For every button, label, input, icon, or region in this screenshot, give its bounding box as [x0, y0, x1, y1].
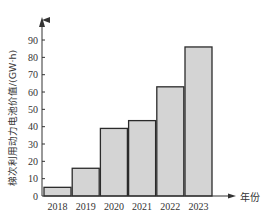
- y-axis: 0102030405060708090: [28, 17, 45, 202]
- x-axis-label: 年份: [240, 191, 260, 203]
- y-tick-label: 70: [28, 69, 38, 80]
- y-tick-label: 20: [28, 156, 38, 167]
- bar-2022: [157, 87, 184, 196]
- bar-2021: [129, 121, 156, 196]
- y-tick-label: 40: [28, 121, 38, 132]
- y-tick-label: 90: [28, 35, 38, 46]
- y-axis-arrow-icon: [39, 17, 45, 27]
- bar-2018: [44, 187, 71, 196]
- y-tick-label: 10: [28, 173, 38, 184]
- x-tick-label: 2021: [132, 201, 152, 212]
- y-tick-label: 80: [28, 52, 38, 63]
- x-tick-label: 2020: [104, 201, 124, 212]
- x-axis: 201820192020202120222023: [42, 194, 236, 213]
- x-tick-label: 2023: [189, 201, 209, 212]
- bar-2020: [100, 128, 127, 196]
- x-tick-label: 2018: [48, 201, 68, 212]
- bar-2019: [72, 168, 99, 196]
- bar-chart: 0102030405060708090 20182019202020212022…: [0, 0, 274, 220]
- y-tick-label: 50: [28, 104, 38, 115]
- y-tick-label: 30: [28, 139, 38, 150]
- x-axis-arrow-icon: [228, 194, 236, 199]
- y-tick-label: 60: [28, 87, 38, 98]
- y-axis-label: 梯次利用动力电池价值/(GW·h): [7, 50, 18, 186]
- bar-2023: [185, 47, 212, 196]
- x-tick-label: 2022: [160, 201, 180, 212]
- bars-group: [44, 47, 212, 196]
- x-tick-label: 2019: [76, 201, 96, 212]
- y-tick-label: 0: [33, 191, 38, 202]
